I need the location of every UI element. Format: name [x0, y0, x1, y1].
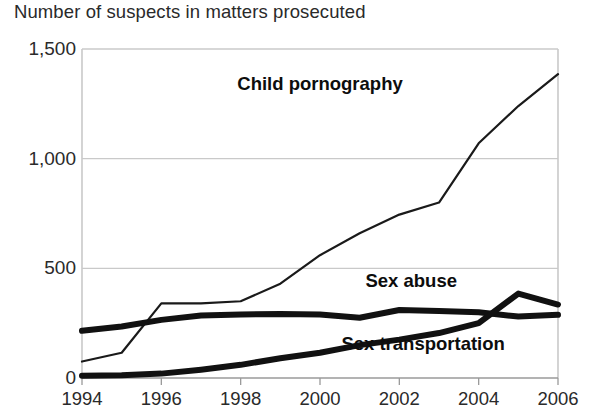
series-label: Sex abuse — [365, 270, 457, 292]
x-tick-label: 1994 — [61, 388, 102, 410]
x-tick-label: 2006 — [537, 388, 578, 410]
series-label: Child pornography — [237, 73, 402, 95]
x-tick-label: 2002 — [379, 388, 420, 410]
data-series-lines — [82, 74, 558, 376]
x-axis-ticks — [82, 378, 558, 385]
x-tick-label: 1996 — [141, 388, 182, 410]
x-tick-label: 1998 — [220, 388, 261, 410]
chart-container: Number of suspects in matters prosecuted… — [0, 0, 593, 420]
x-tick-label: 2004 — [458, 388, 499, 410]
x-tick-label: 2000 — [299, 388, 340, 410]
plot-frame — [82, 49, 558, 378]
series-label: Sex transportation — [341, 333, 504, 355]
chart-plot-area — [0, 0, 593, 420]
